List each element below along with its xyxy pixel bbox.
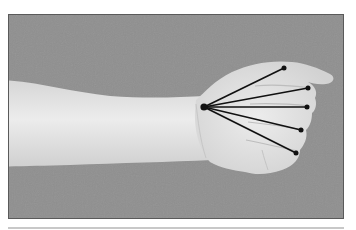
fist-illustration [8, 14, 344, 219]
divider-line [8, 227, 344, 229]
origin-point [200, 103, 207, 110]
index-tip-point [306, 86, 311, 91]
middle-tip-point [305, 105, 310, 110]
ring-tip-point [299, 128, 304, 133]
thumb-tip-point [282, 66, 287, 71]
pinky-tip-point [294, 151, 299, 156]
photo-frame [8, 14, 344, 219]
